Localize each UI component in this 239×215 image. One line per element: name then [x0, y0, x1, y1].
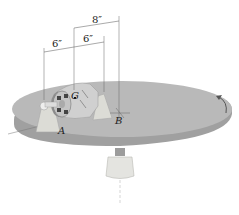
point-G-label: G [71, 90, 79, 101]
point-B-label: B [114, 115, 122, 126]
dim-left-label: 6″ [52, 38, 62, 49]
dim-mid-label: 6″ [83, 33, 93, 44]
point-A-label: A [57, 125, 65, 136]
pedestal [106, 148, 134, 205]
dim-top-label: 8″ [92, 14, 102, 25]
diagram-canvas: 8″ 6″ 6″ G A B [0, 0, 239, 215]
